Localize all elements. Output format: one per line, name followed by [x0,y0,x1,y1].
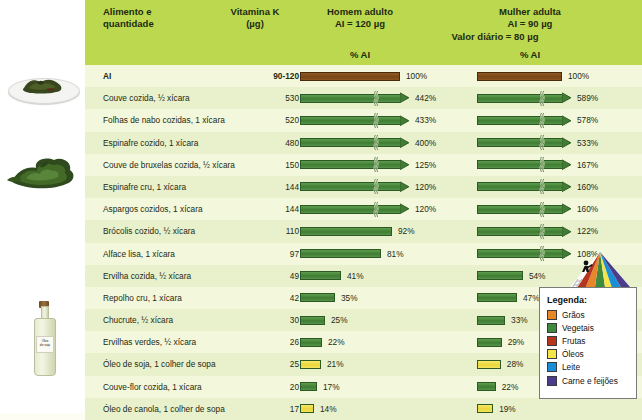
bar-percent-label: 25% [331,315,348,325]
bar-fill [477,271,523,280]
cell-man-bar: 92% [300,220,475,242]
bar-percent-label: 54% [529,271,546,281]
cell-vitamin-k: 144 [213,204,299,214]
legend-swatch-icon [547,376,557,386]
cell-woman-bar: 589% [477,87,642,109]
bar-fill [477,72,562,81]
bar-fill [300,227,392,236]
bottle-label-line2: de soja [37,343,53,347]
cell-vitamin-k: 110 [213,226,299,236]
bar-percent-label: 92% [398,226,415,236]
legend-item: Óleos [547,348,636,361]
leafy-greens-icon [4,148,82,196]
cell-vitamin-k: 17 [213,404,299,414]
bar-percent-label: 41% [347,271,364,281]
cell-food-name: Couve cozida, ½ xícara [103,93,190,103]
legend-items: GrãosVegetaisFrutasÓleosLeiteCarne e fei… [547,308,636,387]
bar-fill [477,94,562,103]
header-daily-value: Valor diário = 80 µg [380,31,610,43]
bar-arrowhead-icon [562,135,571,151]
cell-food-name: Folhas de nabo cozidas, 1 xícara [103,115,225,125]
bar-fill [477,293,517,302]
header-man-line2: AI = 120 µg [290,18,430,30]
legend-label: Óleos [562,349,584,359]
header-woman-line2: AI = 90 µg [455,18,605,30]
bar-fill [477,316,505,325]
cell-food-name: AI [103,71,111,81]
bar-fill [477,205,562,214]
soy-oil-bottle-photo: Óleo de soja [4,300,82,380]
legend-item: Grãos [547,308,636,321]
cell-woman-bar: 160% [477,198,642,220]
bar-arrowhead-icon [562,224,571,240]
bar-fill [300,271,341,280]
cell-vitamin-k: 480 [213,138,299,148]
cell-woman-bar: 578% [477,109,642,131]
header-food-column: Alimento e quantidade [103,6,154,29]
cell-food-name: Alface lisa, 1 xícara [103,249,175,259]
bar-percent-label: 433% [415,115,436,125]
legend-swatch-icon [547,362,557,372]
cell-woman-bar: 122% [477,220,642,242]
table-row: Couve de bruxelas cozida, ½ xícara150125… [85,154,642,176]
bar-fill [477,360,501,369]
cell-vitamin-k: 30 [213,315,299,325]
bar-percent-label: 17% [323,382,340,392]
cell-food-name: Brócolis cozido, ½ xícara [103,226,195,236]
bar-percent-label: 29% [508,337,525,347]
table-header: Alimento e quantidade Vitamina K (µg) Ho… [85,0,642,65]
bar-percent-label: 533% [577,138,598,148]
cell-man-bar: 442% [300,87,475,109]
bar-arrowhead-icon [562,157,571,173]
bar-fill [300,160,400,169]
cell-man-bar: 433% [300,109,475,131]
header-woman-line1: Mulher adulta [455,6,605,18]
bar-fill [477,227,562,236]
bar-percent-label: 81% [387,249,404,259]
bar-arrowhead-icon [562,179,571,195]
cell-man-bar: 14% [300,398,475,420]
legend-item: Leite [547,361,636,374]
legend-swatch-icon [547,336,557,346]
bar-percent-label: 589% [577,93,598,103]
table-row: Couve cozida, ½ xícara530442%589% [85,87,642,109]
cell-woman-bar: 167% [477,154,642,176]
cell-man-bar: 400% [300,132,475,154]
bar-arrowhead-icon [400,113,409,129]
cell-vitamin-k: 25 [213,359,299,369]
bar-fill [300,360,321,369]
header-man-column: Homem adulto AI = 120 µg [290,6,430,29]
table-row: Óleo de canola, 1 colher de sopa1714%19% [85,398,642,420]
bar-fill [300,316,325,325]
bar-fill [300,94,400,103]
bar-arrowhead-icon [562,113,571,129]
bar-percent-label: 100% [568,71,589,81]
cell-man-bar: 41% [300,265,475,287]
bar-fill [300,205,400,214]
header-woman-column: Mulher adulta AI = 90 µg [455,6,605,29]
cell-vitamin-k: 20 [213,382,299,392]
cell-food-name: Repolho cru, 1 xícara [103,293,182,303]
bar-percent-label: 14% [320,404,337,414]
cell-woman-bar: 533% [477,132,642,154]
legend-label: Grãos [562,310,585,320]
cell-man-bar: 21% [300,353,475,375]
cell-vitamin-k: 144 [213,182,299,192]
cell-vitamin-k: 530 [213,93,299,103]
cell-man-bar: 22% [300,331,475,353]
table-row: Espinafre cru, 1 xícara144120%160% [85,176,642,198]
legend-swatch-icon [547,310,557,320]
bar-arrowhead-icon [562,90,571,106]
bar-fill [300,249,381,258]
bar-fill [300,404,314,413]
cooked-greens-icon [20,76,66,96]
legend-title: Legenda: [547,295,636,305]
cell-food-name: Chucrute, ½ xícara [103,315,173,325]
bar-percent-label: 28% [507,359,524,369]
cell-woman-bar: 100% [477,65,642,87]
bar-arrowhead-icon [400,135,409,151]
legend-label: Frutas [562,336,586,346]
bar-percent-label: 47% [523,293,540,303]
bar-fill [477,138,562,147]
